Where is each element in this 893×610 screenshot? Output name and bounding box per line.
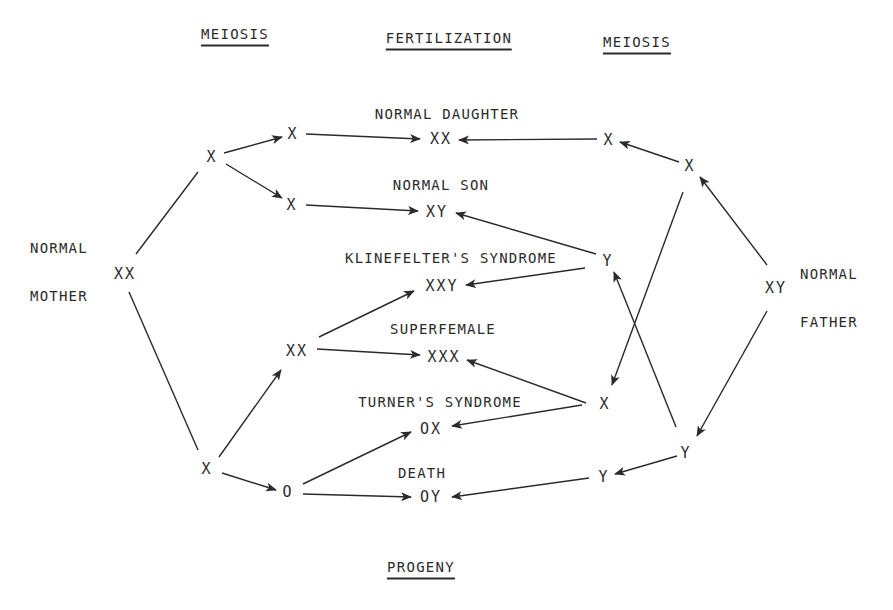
gamete-mother-x-top: X [206,149,217,165]
mother-label: NORMAL MOTHER [30,208,88,336]
gamete-father-x-a: X [603,132,614,148]
edge-f-y-b-to-death [452,478,589,497]
progeny-genotype-normal-son: XY [426,204,448,220]
nondisjunction-diagram: MEIOSIS FERTILIZATION MEIOSIS PROGENY NO… [0,0,893,610]
mother-label-line1: NORMAL [30,240,88,256]
gamete-mother-x-bottom: X [201,461,212,477]
edge-f-x-a-to-normal-daughter [459,139,597,140]
progeny-genotype-superfemale: XXX [427,349,460,365]
progeny-genotype-turner: OX [420,421,442,437]
gamete-father-y-b: Y [598,469,609,485]
edge-m-o-to-turner [303,432,411,484]
progeny-genotype-death: OY [420,489,442,505]
gamete-mother-xx: XX [286,343,308,359]
gamete-mother-x-b: X [286,197,297,213]
gamete-father-x-b: X [599,396,610,412]
edge-mother-to-m-x-top [136,172,198,254]
gamete-father-y-a: Y [602,253,613,269]
edge-f-y-bottom-to-f-y-b [615,456,677,474]
edge-father-to-f-x-top [700,177,767,265]
header-fertilization: FERTILIZATION [386,30,512,51]
progeny-genotype-klinefelter: XXY [425,278,458,294]
father-label-line2: FATHER [800,314,858,330]
gamete-mother-x-a: X [287,126,298,142]
edge-m-x-top-to-m-x-a [224,137,282,153]
edge-f-y-a-to-klinefelter [466,268,585,285]
gamete-father-y-bottom: Y [680,445,691,461]
edge-m-o-to-death [303,494,411,497]
edge-f-x-top-to-f-x-a [620,142,679,162]
edge-m-x-bottom-to-m-xx [219,370,281,457]
edge-father-to-f-y-bottom [697,311,767,436]
gamete-mother-o: O [282,484,293,500]
edge-m-xx-to-superfemale [317,349,420,355]
edges-layer [0,0,893,610]
progeny-name-turner: TURNER'S SYNDROME [358,394,522,410]
edge-f-y-a-to-normal-son [456,213,596,254]
edge-m-x-a-to-normal-daughter [306,134,420,139]
header-meiosis-left: MEIOSIS [201,26,269,47]
edge-mother-to-m-x-bottom [129,292,198,450]
father-label-line1: NORMAL [800,266,858,282]
mother-label-line2: MOTHER [30,288,88,304]
progeny-name-normal-son: NORMAL SON [393,177,489,193]
progeny-genotype-normal-daughter: XX [430,131,452,147]
father-genotype: XY [765,280,787,296]
progeny-name-normal-daughter: NORMAL DAUGHTER [375,106,519,122]
gamete-father-x-top: X [684,158,695,174]
father-label: NORMAL FATHER [800,234,858,362]
header-progeny: PROGENY [387,559,455,580]
header-meiosis-right: MEIOSIS [603,34,671,55]
progeny-name-superfemale: SUPERFEMALE [390,321,496,337]
edge-m-x-bottom-to-m-o [222,473,276,490]
mother-genotype: XX [114,266,136,282]
progeny-name-death: DEATH [398,465,446,481]
edge-m-x-b-to-normal-son [306,205,418,211]
edge-m-x-top-to-m-x-b [226,164,282,198]
progeny-name-klinefelter: KLINEFELTER'S SYNDROME [345,250,557,266]
